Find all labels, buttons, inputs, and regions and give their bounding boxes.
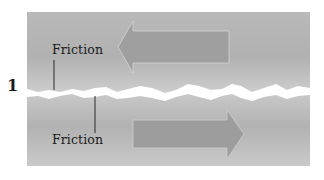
figure-number: 1	[7, 76, 18, 95]
friction-label-bottom: Friction	[52, 132, 103, 147]
diagram-canvas	[0, 0, 324, 180]
friction-diagram: 1 Friction Friction	[0, 0, 324, 180]
friction-label-top: Friction	[52, 42, 103, 57]
